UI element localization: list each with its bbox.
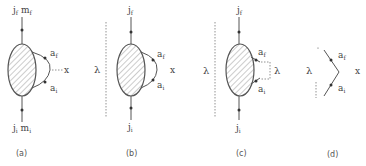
panel-a-bottom-arrow-icon (21, 109, 24, 112)
panel-a: jf mf af ai x ji mi (a) (8, 5, 69, 158)
panel-c-blob (226, 44, 254, 96)
panel-b-top-arrow-icon (130, 31, 133, 34)
panel-b-blob (117, 44, 145, 96)
panel-d-x-label: x (355, 66, 360, 76)
panel-b-af-label: af (157, 49, 165, 60)
panel-b-top-label: jf (127, 5, 134, 16)
panel-b-loop-top-arrow-icon (152, 59, 155, 62)
panel-c-af-label: af (258, 47, 266, 58)
panel-d-af-arrow-icon (330, 59, 333, 62)
panel-c-caption: (c) (236, 149, 247, 158)
panel-b-caption: (b) (126, 149, 137, 158)
panel-a-x-label: x (64, 65, 69, 75)
panel-a-top-arrow-icon (21, 29, 24, 32)
panel-b-bottom-arrow-icon (130, 107, 133, 110)
panel-d-lambda-label: λ (306, 65, 313, 76)
panel-a-ai-label: ai (50, 83, 57, 94)
panel-b-ai-label: ai (157, 80, 164, 91)
panel-d: λ af ai x (d) (306, 47, 360, 159)
panel-d-af-label: af (338, 50, 346, 61)
panel-c-top-label: jf (236, 5, 243, 16)
panel-a-caption: (a) (16, 149, 27, 158)
panel-c-side-bracket (261, 62, 270, 79)
panel-c-lambda-label: λ (203, 65, 210, 76)
panel-a-loop-bottom-arrow-icon (44, 81, 47, 84)
panel-c-bottom-label: ji (235, 123, 241, 134)
panel-a-blob (8, 44, 36, 96)
panel-d-dot (317, 47, 318, 48)
panel-b-lambda-label: λ (94, 64, 101, 75)
panel-c-top-arrow-icon (238, 31, 241, 34)
panel-d-vertex-lines (324, 50, 339, 96)
panel-d-ai-label: ai (338, 83, 345, 94)
panel-b-x-label: x (170, 65, 175, 75)
panel-c-side-lambda-label: λ (274, 65, 281, 76)
panel-a-top-label: jf mf (12, 5, 32, 16)
panel-a-loop-top-arrow-icon (44, 57, 47, 60)
diagram-canvas: jf mf af ai x ji mi (a) λ jf af ai x ji … (0, 0, 366, 166)
panel-c-ai-label: ai (258, 84, 265, 95)
panel-d-caption: (d) (327, 150, 338, 159)
panel-b: λ jf af ai x ji (b) (94, 5, 175, 158)
panel-c-ai-arrow-icon (255, 80, 258, 83)
panel-c-af-arrow-icon (255, 59, 258, 62)
panel-b-loop-bottom-arrow-icon (152, 79, 155, 82)
panel-a-af-label: af (50, 48, 58, 59)
panel-c: λ jf af ai λ ji (c) (203, 5, 281, 158)
panel-b-bottom-label: ji (127, 122, 133, 133)
panel-a-bottom-label: ji mi (12, 123, 31, 134)
panel-d-ai-arrow-icon (330, 84, 333, 87)
panel-c-bottom-arrow-icon (238, 109, 241, 112)
